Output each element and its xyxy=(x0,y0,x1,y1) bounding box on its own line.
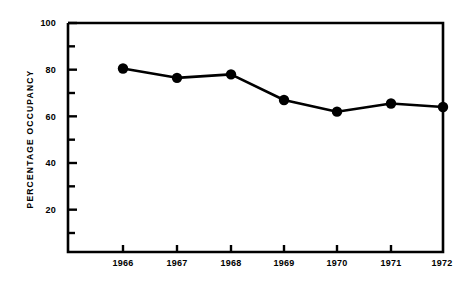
data-markers xyxy=(118,63,448,117)
x-tick-label-1967: 1967 xyxy=(155,258,199,268)
data-point-1966 xyxy=(118,63,128,73)
y-axis-ticks xyxy=(68,23,77,233)
plot-area xyxy=(0,0,462,294)
data-point-1970 xyxy=(332,106,342,116)
x-tick-label-1968: 1968 xyxy=(209,258,253,268)
y-tick-label-60: 60 xyxy=(30,112,56,122)
y-tick-label-80: 80 xyxy=(30,65,56,75)
data-point-1969 xyxy=(279,95,289,105)
x-tick-label-1966: 1966 xyxy=(101,258,145,268)
chart-figure: PERCENTAGE OCCUPANCY 100 80 60 40 20 196… xyxy=(0,0,462,294)
chart-title xyxy=(0,0,462,2)
data-point-1967 xyxy=(172,73,182,83)
x-tick-label-1969: 1969 xyxy=(262,258,306,268)
y-tick-label-40: 40 xyxy=(30,158,56,168)
y-tick-label-20: 20 xyxy=(30,205,56,215)
x-tick-label-1972: 1972 xyxy=(420,258,462,268)
data-point-1971 xyxy=(386,98,396,108)
data-point-1972 xyxy=(438,102,448,112)
x-tick-label-1971: 1971 xyxy=(369,258,413,268)
data-point-1968 xyxy=(226,69,236,79)
axis-frame xyxy=(68,23,443,252)
y-tick-label-100: 100 xyxy=(30,18,56,28)
x-tick-label-1970: 1970 xyxy=(315,258,359,268)
